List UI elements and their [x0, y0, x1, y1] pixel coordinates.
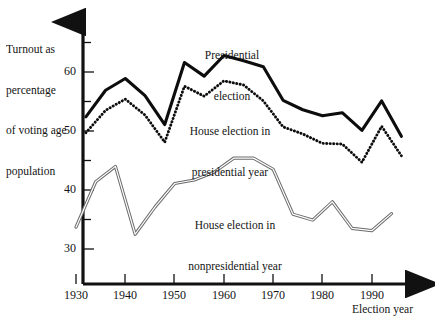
- y-axis-caption: Turnout as percentage of voting age popu…: [6, 16, 80, 205]
- x-tick-label-1940: 1940: [101, 288, 149, 303]
- series-label-house-nonpres-line-1: House election in: [168, 219, 302, 233]
- series-label-house-pres-line-1: House election in: [170, 125, 290, 139]
- y-tick-label-30: 30: [40, 241, 76, 256]
- series-label-house-pres-line-2: presidential year: [170, 166, 290, 180]
- series-label-house-presidential-year: House election in presidential year: [170, 98, 290, 206]
- y-axis-caption-line-4: population: [6, 165, 80, 179]
- x-tick-label-1990: 1990: [348, 288, 396, 303]
- x-tick-label-1980: 1980: [298, 288, 346, 303]
- y-tick-label-60: 60: [40, 64, 76, 79]
- series-label-house-nonpresidential-year: House election in nonpresidential year: [168, 192, 302, 300]
- y-tick-label-50: 50: [40, 123, 76, 138]
- y-axis-ticks: [83, 43, 94, 250]
- y-tick-label-40: 40: [40, 182, 76, 197]
- x-axis-caption: Election year: [352, 303, 434, 317]
- series-label-house-nonpres-line-2: nonpresidential year: [168, 260, 302, 274]
- x-tick-label-1930: 1930: [52, 288, 100, 303]
- y-axis-caption-line-2: percentage: [6, 84, 80, 98]
- y-axis-caption-line-1: Turnout as: [6, 43, 80, 57]
- y-axis: [83, 22, 94, 284]
- turnout-line-chart: Turnout as percentage of voting age popu…: [0, 0, 435, 320]
- series-label-presidential-line-1: Presidential: [180, 49, 284, 63]
